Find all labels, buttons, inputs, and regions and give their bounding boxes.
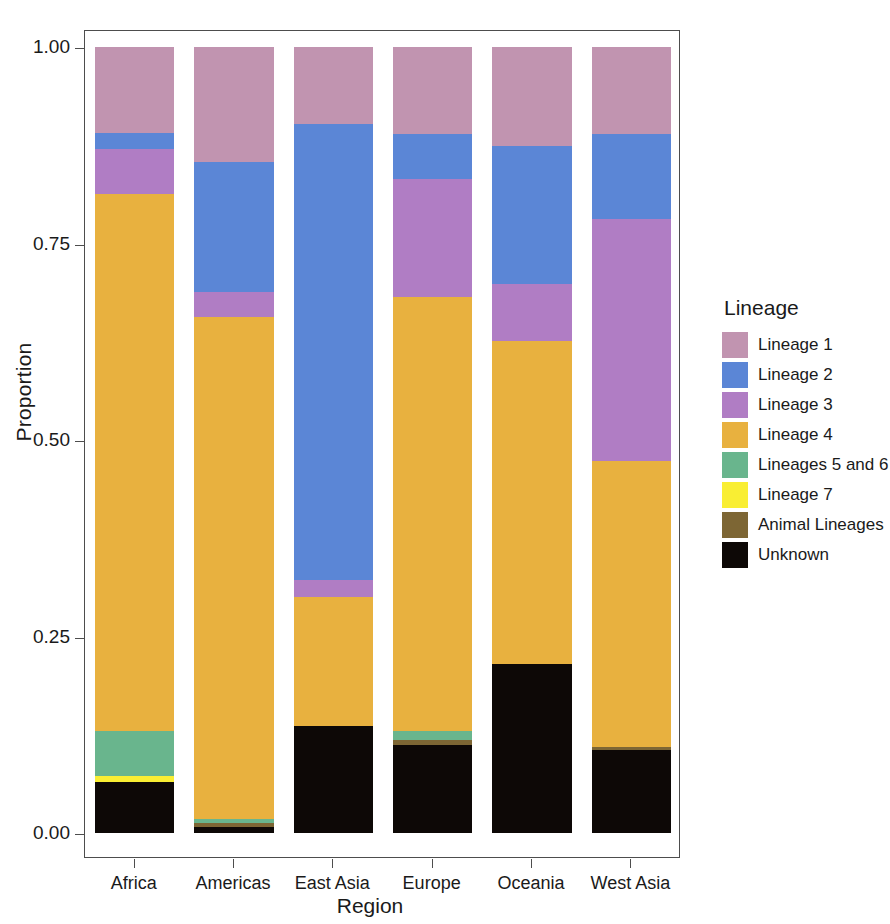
bar-segment[interactable] — [592, 461, 671, 746]
bar-segment[interactable] — [194, 317, 273, 818]
bar-segment[interactable] — [492, 284, 571, 341]
legend-swatch-icon — [722, 392, 748, 418]
y-axis-tick-label: 0.50 — [0, 429, 70, 451]
legend-item-label: Animal Lineages — [758, 515, 884, 535]
x-axis-tick-mark — [630, 859, 631, 868]
stacked-bar[interactable] — [492, 47, 571, 833]
x-axis-tick-label: Oceania — [497, 873, 564, 894]
legend-swatch-icon — [722, 362, 748, 388]
y-axis-title: Proportion — [12, 302, 36, 482]
bar-segment[interactable] — [294, 580, 373, 597]
legend-swatch-icon — [722, 332, 748, 358]
bar-segment[interactable] — [492, 146, 571, 284]
bar-segment[interactable] — [592, 747, 671, 751]
legend-item[interactable]: Lineage 2 — [722, 360, 890, 390]
bar-segment[interactable] — [294, 597, 373, 726]
bar-segment[interactable] — [592, 47, 671, 134]
legend-items: Lineage 1Lineage 2Lineage 3Lineage 4Line… — [722, 330, 890, 570]
bar-segment[interactable] — [95, 133, 174, 149]
bar-segment[interactable] — [95, 194, 174, 731]
x-axis-tick-label: Europe — [403, 873, 461, 894]
x-axis-tick-mark — [134, 859, 135, 868]
bar-segment[interactable] — [95, 47, 174, 133]
stacked-bar[interactable] — [194, 47, 273, 833]
legend-item-label: Lineage 7 — [758, 485, 833, 505]
bar-segment[interactable] — [393, 731, 472, 740]
y-axis-tick-mark — [75, 48, 84, 49]
bar-segment[interactable] — [194, 823, 273, 827]
legend-item[interactable]: Animal Lineages — [722, 510, 890, 540]
legend-swatch-icon — [722, 452, 748, 478]
legend-item[interactable]: Lineage 7 — [722, 480, 890, 510]
chart-figure: Proportion Region 1.000.750.500.250.00 A… — [0, 0, 890, 924]
legend-swatch-icon — [722, 482, 748, 508]
x-axis-tick-label: West Asia — [590, 873, 670, 894]
y-axis-tick-mark — [75, 245, 84, 246]
x-axis-tick-label: East Asia — [295, 873, 370, 894]
bar-segment[interactable] — [592, 134, 671, 219]
bar-segment[interactable] — [194, 819, 273, 823]
bar-segment[interactable] — [95, 782, 174, 833]
bar-segment[interactable] — [393, 297, 472, 731]
y-axis-tick-mark — [75, 638, 84, 639]
legend-item-label: Lineage 1 — [758, 335, 833, 355]
plot-panel — [84, 30, 680, 858]
bar-segment[interactable] — [294, 726, 373, 833]
bar-segment[interactable] — [393, 740, 472, 745]
x-axis-tick-label: Americas — [195, 873, 270, 894]
legend-item-label: Lineage 4 — [758, 425, 833, 445]
x-axis-tick-mark — [531, 859, 532, 868]
bar-segment[interactable] — [393, 745, 472, 833]
y-axis-tick-label: 0.00 — [0, 822, 70, 844]
bar-segment[interactable] — [393, 179, 472, 297]
bar-segment[interactable] — [95, 776, 174, 782]
bar-segment[interactable] — [95, 149, 174, 194]
legend-swatch-icon — [722, 422, 748, 448]
legend-item[interactable]: Lineage 3 — [722, 390, 890, 420]
bar-segment[interactable] — [592, 750, 671, 833]
bar-segment[interactable] — [194, 47, 273, 162]
bar-segment[interactable] — [492, 341, 571, 664]
stacked-bar[interactable] — [393, 47, 472, 833]
legend: Lineage Lineage 1Lineage 2Lineage 3Linea… — [722, 296, 890, 570]
bar-segment[interactable] — [492, 47, 571, 146]
bar-segment[interactable] — [294, 47, 373, 124]
bar-segment[interactable] — [492, 664, 571, 833]
legend-swatch-icon — [722, 512, 748, 538]
bar-segment[interactable] — [95, 731, 174, 777]
bar-segment[interactable] — [194, 827, 273, 833]
stacked-bar[interactable] — [95, 47, 174, 833]
y-axis-tick-label: 0.75 — [0, 233, 70, 255]
y-axis-tick-mark — [75, 441, 84, 442]
legend-item-label: Lineage 3 — [758, 395, 833, 415]
y-axis-tick-label: 1.00 — [0, 36, 70, 58]
legend-item[interactable]: Lineages 5 and 6 — [722, 450, 890, 480]
x-axis-tick-label: Africa — [111, 873, 157, 894]
x-axis-title: Region — [60, 894, 680, 918]
stacked-bar[interactable] — [294, 47, 373, 833]
x-axis-tick-mark — [432, 859, 433, 868]
stacked-bar[interactable] — [592, 47, 671, 833]
x-axis-tick-mark — [233, 859, 234, 868]
y-axis-tick-label: 0.25 — [0, 626, 70, 648]
bar-segment[interactable] — [592, 219, 671, 461]
x-axis-tick-mark — [332, 859, 333, 868]
legend-item-label: Unknown — [758, 545, 829, 565]
bar-segment[interactable] — [294, 124, 373, 580]
legend-item[interactable]: Lineage 4 — [722, 420, 890, 450]
legend-item-label: Lineages 5 and 6 — [758, 455, 888, 475]
legend-item-label: Lineage 2 — [758, 365, 833, 385]
bar-segment[interactable] — [393, 47, 472, 134]
legend-item[interactable]: Unknown — [722, 540, 890, 570]
y-axis-tick-mark — [75, 834, 84, 835]
bar-segment[interactable] — [194, 292, 273, 317]
legend-title: Lineage — [724, 296, 890, 320]
bar-segment[interactable] — [393, 134, 472, 179]
bar-segment[interactable] — [194, 162, 273, 292]
legend-item[interactable]: Lineage 1 — [722, 330, 890, 360]
legend-swatch-icon — [722, 542, 748, 568]
